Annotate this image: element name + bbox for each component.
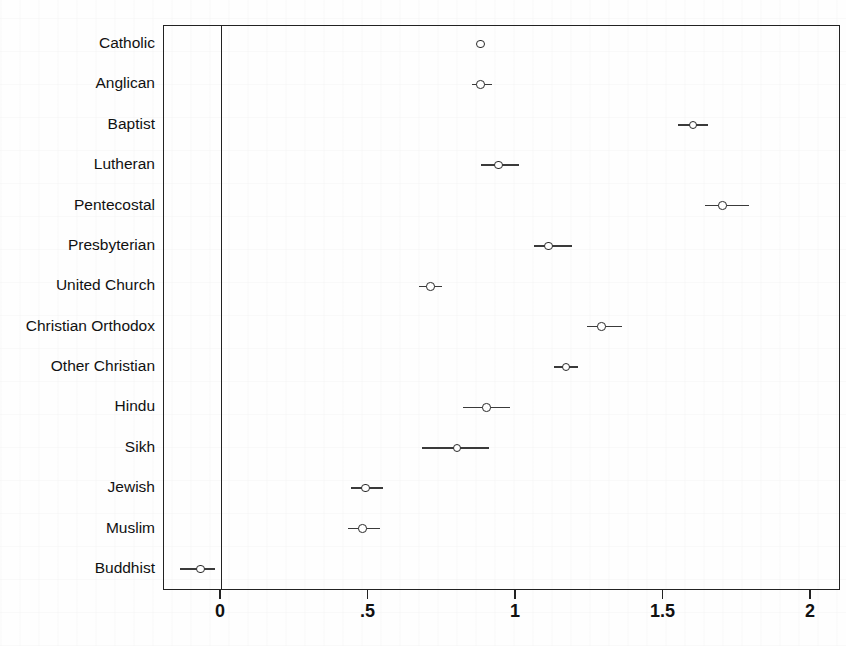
point-estimate-marker [597, 322, 606, 331]
point-estimate-marker [361, 484, 370, 493]
point-estimate-marker [196, 565, 205, 574]
category-label-presbyterian: Presbyterian [0, 236, 155, 254]
coefficient-plot-figure: CatholicAnglicanBaptistLutheranPentecost… [0, 0, 846, 646]
x-axis-tick [809, 590, 810, 599]
x-axis-tick-label: 1.5 [633, 601, 693, 622]
x-axis-tick [367, 590, 368, 599]
x-axis-tick [662, 590, 663, 599]
point-estimate-marker [494, 161, 503, 170]
point-estimate-marker [718, 201, 727, 210]
plot-area [163, 25, 840, 590]
category-label-united-church: United Church [0, 276, 155, 294]
category-label-sikh: Sikh [0, 438, 155, 456]
category-label-hindu: Hindu [0, 397, 155, 415]
point-estimate-marker [453, 444, 462, 453]
point-estimate-marker [482, 403, 491, 412]
point-estimate-marker [689, 121, 698, 130]
category-label-muslim: Muslim [0, 519, 155, 537]
x-axis-tick-label: 0 [190, 601, 250, 622]
category-label-lutheran: Lutheran [0, 155, 155, 173]
category-label-anglican: Anglican [0, 74, 155, 92]
category-label-baptist: Baptist [0, 115, 155, 133]
category-label-christian-orthodox: Christian Orthodox [0, 317, 155, 335]
confidence-interval-bar [705, 205, 749, 207]
category-label-buddhist: Buddhist [0, 559, 155, 577]
point-estimate-marker [476, 40, 485, 49]
category-label-pentecostal: Pentecostal [0, 196, 155, 214]
x-axis-tick-label: 2 [780, 601, 840, 622]
x-axis-tick-label: .5 [338, 601, 398, 622]
x-axis-tick [514, 590, 515, 599]
point-estimate-marker [476, 80, 485, 89]
x-axis-tick [219, 590, 220, 599]
category-label-catholic: Catholic [0, 34, 155, 52]
confidence-interval-bar [534, 245, 572, 247]
category-label-other-christian: Other Christian [0, 357, 155, 375]
point-estimate-marker [562, 363, 571, 372]
category-label-jewish: Jewish [0, 478, 155, 496]
zero-reference-line [221, 26, 222, 589]
point-estimate-marker [426, 282, 435, 291]
point-estimate-marker [544, 242, 553, 251]
x-axis-tick-label: 1 [485, 601, 545, 622]
point-estimate-marker [358, 524, 367, 533]
